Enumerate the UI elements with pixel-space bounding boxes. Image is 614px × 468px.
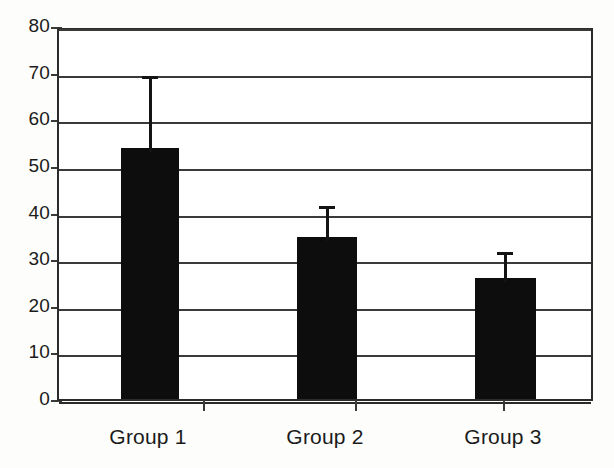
gridline-80 — [59, 29, 591, 31]
bar-group-3 — [475, 278, 536, 399]
x-tick-mark-1 — [203, 400, 205, 411]
x-category-label-3: Group 3 — [433, 425, 573, 449]
gridline-0 — [59, 402, 591, 404]
y-tick-label-10: 10 — [28, 341, 50, 363]
x-tick-mark-3 — [503, 400, 505, 411]
y-tick-label-50: 50 — [28, 155, 50, 177]
x-category-label-2: Group 2 — [255, 425, 395, 449]
error-bar-cap-3 — [497, 252, 513, 255]
error-bar-stem-3 — [504, 252, 507, 282]
y-tick-label-40: 40 — [28, 202, 50, 224]
plot-area — [57, 28, 593, 401]
gridline-60 — [59, 122, 591, 124]
error-bar-stem-1 — [149, 76, 152, 152]
y-tick-label-0: 0 — [39, 388, 50, 410]
x-category-label-1: Group 1 — [78, 425, 218, 449]
chart-figure: 01020304050607080 Group 1Group 2Group 3 — [0, 0, 614, 468]
x-tick-mark-2 — [355, 400, 357, 411]
y-tick-label-30: 30 — [28, 248, 50, 270]
y-tick-label-70: 70 — [28, 62, 50, 84]
error-bar-cap-2 — [319, 206, 335, 209]
y-tick-label-60: 60 — [28, 108, 50, 130]
y-tick-label-20: 20 — [28, 295, 50, 317]
y-tick-label-80: 80 — [28, 15, 50, 37]
bar-group-1 — [121, 148, 179, 399]
error-bar-stem-2 — [326, 206, 329, 241]
gridline-70 — [59, 76, 591, 78]
error-bar-cap-1 — [142, 76, 158, 79]
bar-group-2 — [297, 237, 357, 399]
